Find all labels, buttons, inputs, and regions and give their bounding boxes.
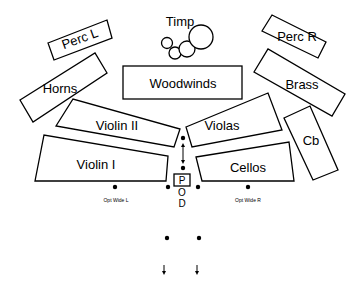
mic-dot bbox=[181, 136, 185, 140]
section-label: Violin II bbox=[96, 118, 138, 133]
mic-dot bbox=[181, 166, 185, 170]
section-label: Violin I bbox=[77, 157, 116, 172]
section-label: Brass bbox=[285, 77, 319, 92]
section-label: Violas bbox=[204, 118, 240, 133]
arrow-down-icon bbox=[162, 265, 166, 275]
podium-letter: O bbox=[178, 187, 186, 198]
podium-letter: D bbox=[178, 198, 185, 209]
mic-dot bbox=[165, 236, 169, 240]
mic-dot bbox=[113, 185, 117, 189]
arrow-down-icon bbox=[181, 160, 185, 164]
section-label: Cellos bbox=[230, 160, 267, 175]
section-timp: Timp bbox=[162, 14, 214, 59]
section-label: Cb bbox=[303, 133, 320, 148]
section-cellos: Cellos bbox=[196, 142, 294, 181]
mic-dot bbox=[196, 185, 200, 189]
podium-letter: P bbox=[179, 175, 186, 186]
mic-dot bbox=[197, 236, 201, 240]
mic-opt-wide-l: Opt Wide L bbox=[103, 185, 128, 203]
section-label: Timp bbox=[166, 14, 194, 29]
arrow-down-icon bbox=[195, 265, 199, 275]
mic-dot bbox=[246, 185, 250, 189]
section-label: Horns bbox=[43, 81, 78, 96]
mic-opt-wide-r: Opt Wide R bbox=[235, 185, 261, 203]
center-mic-line bbox=[181, 136, 185, 170]
arrow-up-icon bbox=[181, 143, 185, 147]
section-woodwinds: Woodwinds bbox=[123, 66, 242, 99]
section-perc-l: Perc L bbox=[48, 20, 112, 60]
mic-label: Opt Wide R bbox=[235, 197, 261, 203]
section-violas: Violas bbox=[186, 93, 282, 147]
mic-label: Opt Wide L bbox=[103, 197, 128, 203]
podium: P O D bbox=[174, 174, 190, 209]
timpani-drum-icon bbox=[162, 38, 173, 49]
timpani-drum-icon bbox=[189, 25, 213, 49]
mic-dot bbox=[166, 185, 170, 189]
orchestra-seating-diagram: Perc L Timp Perc R Horns Woodwinds Brass… bbox=[0, 0, 359, 288]
section-label: Perc R bbox=[277, 29, 317, 44]
section-label: Woodwinds bbox=[150, 76, 217, 91]
